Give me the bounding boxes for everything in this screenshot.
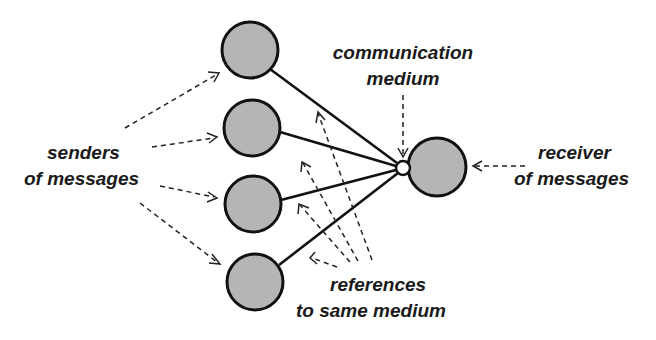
arrowhead-icon <box>301 162 311 172</box>
dashed-arrow-icon <box>125 75 216 128</box>
dashed-arrow-icon <box>303 163 358 261</box>
link-sender-4 <box>279 173 398 265</box>
sender-nodes <box>222 22 283 310</box>
communication-medium-node <box>396 161 410 175</box>
medium-label-line1: communication <box>333 42 473 63</box>
arrowhead-icon <box>310 252 317 264</box>
receiver-node <box>408 138 466 196</box>
receiver-label-line2: of messages <box>514 168 629 189</box>
message-passing-diagram: senders of messages communication medium… <box>0 0 656 340</box>
dashed-arrow-icon <box>140 203 217 262</box>
medium-pointer-arrow <box>398 95 408 157</box>
dashed-arrow-icon <box>152 138 214 147</box>
dashed-arrow-icon <box>160 186 214 197</box>
sender-pointer-arrows <box>125 72 220 264</box>
references-label-line1: references <box>330 274 426 295</box>
references-label-line2: to same medium <box>296 300 446 321</box>
sender-node-2 <box>224 100 280 156</box>
arrowhead-icon <box>207 192 217 202</box>
sender-node-3 <box>225 176 281 232</box>
arrowhead-icon <box>209 254 220 264</box>
medium-label-line2: medium <box>367 68 440 89</box>
receiver-label-line1: receiver <box>538 142 613 163</box>
arrowhead-icon <box>207 133 217 143</box>
dashed-arrow-icon <box>318 113 372 260</box>
senders-label-line1: senders <box>47 142 120 163</box>
senders-label-line2: of messages <box>24 168 139 189</box>
link-sender-3 <box>281 170 396 200</box>
sender-node-4 <box>227 254 283 310</box>
sender-links <box>270 69 398 265</box>
sender-node-1 <box>222 22 278 78</box>
